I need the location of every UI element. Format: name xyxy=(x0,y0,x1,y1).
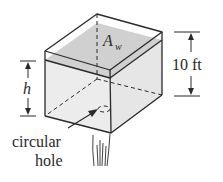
tank-height-label: 10 ft xyxy=(172,56,202,73)
h-arrow-up-icon xyxy=(25,62,31,69)
height-arrow-up-icon xyxy=(188,33,194,40)
water-area-label: A xyxy=(102,32,113,49)
hole-label-line2: hole xyxy=(35,152,63,169)
tank-diagram: A w h 10 ft circular hole xyxy=(0,0,223,182)
hole-label-line1: circular xyxy=(12,133,62,150)
water-stream xyxy=(93,134,110,166)
h-arrow-down-icon xyxy=(25,108,31,115)
height-arrow-down-icon xyxy=(188,88,194,95)
h-label: h xyxy=(23,80,31,97)
water-area-subscript: w xyxy=(115,41,122,52)
